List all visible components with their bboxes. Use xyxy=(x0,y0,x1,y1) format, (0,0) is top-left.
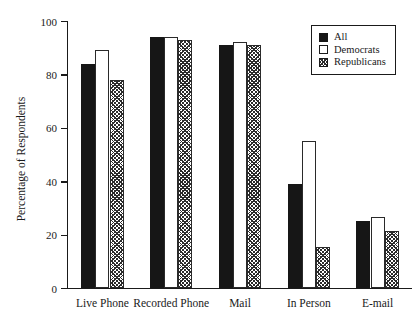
y-axis-tick-label: 20 xyxy=(46,230,57,241)
bar-democrats-e-mail xyxy=(371,217,385,288)
x-axis-label-mail: Mail xyxy=(229,297,251,310)
bar-republicans-live-phone xyxy=(110,80,124,288)
bar-all-in-person xyxy=(288,184,302,288)
x-axis-label-e-mail: E-mail xyxy=(362,297,393,310)
y-axis-tick: 0 xyxy=(61,288,68,289)
y-axis-tick-label: 100 xyxy=(41,16,58,27)
legend-entry-democrats: Democrats xyxy=(319,44,386,57)
bar-republicans-mail xyxy=(247,45,261,288)
bar-republicans-e-mail xyxy=(385,231,399,288)
y-axis-tick-label: 60 xyxy=(46,123,57,134)
legend-label-republicans: Republicans xyxy=(334,57,386,68)
y-axis-tick: 20 xyxy=(61,235,68,236)
bar-republicans-in-person xyxy=(316,247,330,288)
y-axis-tick-label: 0 xyxy=(52,283,58,294)
legend: All Democrats Republicans xyxy=(311,25,396,75)
y-axis-tick: 60 xyxy=(61,128,68,129)
y-axis-title: Percentage of Respondents xyxy=(12,26,30,293)
bar-all-mail xyxy=(219,45,233,288)
bar-democrats-mail xyxy=(233,42,247,288)
bar-democrats-live-phone xyxy=(95,50,109,288)
bar-all-recorded-phone xyxy=(150,37,164,288)
legend-swatch-republicans-icon xyxy=(319,58,328,67)
legend-entry-republicans: Republicans xyxy=(319,56,386,69)
legend-swatch-democrats-icon xyxy=(319,45,328,54)
y-axis-tick-label: 80 xyxy=(46,70,57,81)
x-axis-line xyxy=(67,288,412,289)
legend-label-all: All xyxy=(334,32,347,43)
legend-swatch-all-icon xyxy=(319,33,328,42)
chart-figure: Percentage of Respondents 020406080100 L… xyxy=(0,0,417,330)
bar-all-live-phone xyxy=(81,64,95,288)
y-axis-tick: 40 xyxy=(61,181,68,182)
x-axis-label-recorded-phone: Recorded Phone xyxy=(133,297,209,310)
legend-label-democrats: Democrats xyxy=(334,45,379,56)
y-axis-tick: 80 xyxy=(61,74,68,75)
bar-democrats-in-person xyxy=(302,141,316,288)
y-axis-tick: 100 xyxy=(61,21,68,22)
x-axis-label-live-phone: Live Phone xyxy=(76,297,129,310)
y-axis-tick-label: 40 xyxy=(46,176,57,187)
bar-all-e-mail xyxy=(356,221,370,288)
bar-republicans-recorded-phone xyxy=(178,40,192,288)
bar-democrats-recorded-phone xyxy=(164,37,178,288)
x-axis-label-in-person: In Person xyxy=(287,297,331,310)
legend-entry-all: All xyxy=(319,31,386,44)
